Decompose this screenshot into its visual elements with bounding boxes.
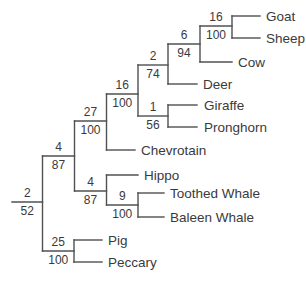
support-below-pig-peccary: 100 — [48, 253, 68, 267]
support-below-root: 52 — [21, 204, 35, 218]
support-above-bovid-cow: 6 — [181, 28, 188, 42]
taxon-label-toothed-whale: Toothed Whale — [170, 186, 260, 201]
support-below-bovid-cervid: 74 — [146, 67, 160, 81]
taxon-label-hippo: Hippo — [144, 168, 179, 183]
taxon-label-cow: Cow — [238, 55, 265, 70]
support-above-pecora: 16 — [116, 78, 130, 92]
support-above-giraffe-pronghorn: 1 — [150, 100, 157, 114]
support-below-whippomorpha: 87 — [84, 193, 98, 207]
support-above-pig-peccary: 25 — [52, 235, 66, 249]
support-below-giraffe-pronghorn: 56 — [146, 118, 160, 132]
support-below-non-suiform: 87 — [52, 158, 66, 172]
taxon-label-pronghorn: Pronghorn — [204, 120, 267, 135]
support-below-ruminants: 100 — [80, 123, 100, 137]
support-above-whippomorpha: 4 — [87, 175, 94, 189]
support-above-goat-sheep: 16 — [209, 10, 223, 24]
support-above-whales: 9 — [119, 189, 126, 203]
taxon-label-pig: Pig — [108, 233, 128, 248]
taxon-label-peccary: Peccary — [108, 255, 157, 270]
support-above-ruminants: 27 — [84, 105, 98, 119]
figure-canvas: 2524872710016100274694161001564879100251… — [0, 0, 306, 282]
support-above-root: 2 — [24, 186, 31, 200]
taxon-label-deer: Deer — [203, 77, 233, 92]
support-above-bovid-cervid: 2 — [150, 49, 157, 63]
phylogenetic-tree: 2524872710016100274694161001564879100251… — [0, 0, 306, 282]
support-below-goat-sheep: 100 — [206, 28, 226, 42]
support-below-pecora: 100 — [112, 96, 132, 110]
support-below-bovid-cow: 94 — [177, 46, 191, 60]
taxon-label-chevrotain: Chevrotain — [141, 143, 206, 158]
taxon-label-baleen-whale: Baleen Whale — [170, 210, 254, 225]
taxon-label-sheep: Sheep — [266, 31, 305, 46]
taxon-label-goat: Goat — [266, 9, 296, 24]
support-below-whales: 100 — [112, 207, 132, 221]
taxon-label-giraffe: Giraffe — [204, 98, 244, 113]
support-above-non-suiform: 4 — [55, 140, 62, 154]
